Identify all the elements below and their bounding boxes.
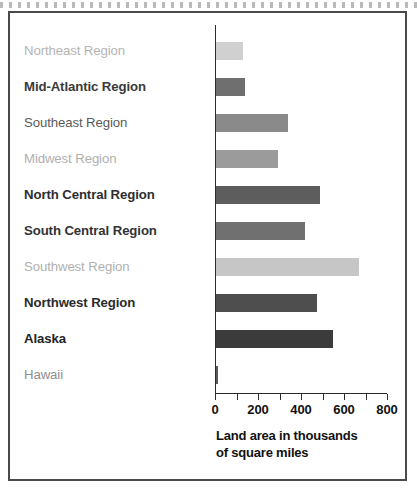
bar-chart: Northeast RegionMid-Atlantic RegionSouth…: [10, 13, 405, 479]
bar-row: Mid-Atlantic Region: [10, 69, 405, 105]
bar-track: [216, 33, 394, 69]
bar-row: Northeast Region: [10, 33, 405, 69]
bar-category-label: Northeast Region: [24, 33, 125, 69]
x-axis-tick: [323, 394, 324, 400]
x-axis-tick: [237, 394, 238, 400]
x-axis-tick: [344, 394, 345, 400]
bar-category-label: Mid-Atlantic Region: [24, 69, 146, 105]
bar-row: Midwest Region: [10, 141, 405, 177]
x-axis-tick: [366, 394, 367, 400]
bar-category-label: Alaska: [24, 321, 66, 357]
x-axis-tick-label: 600: [333, 402, 355, 417]
bar-category-label: Hawaii: [24, 357, 63, 393]
bar: [216, 42, 243, 60]
bar: [216, 186, 320, 204]
bar-track: [216, 105, 394, 141]
x-axis-tick-label: 0: [211, 402, 218, 417]
bar: [216, 114, 288, 132]
x-axis-tick-label: 400: [290, 402, 312, 417]
x-axis-tick-label: 800: [376, 402, 398, 417]
bar: [216, 294, 317, 312]
bar-row: Alaska: [10, 321, 405, 357]
chart-frame: Northeast RegionMid-Atlantic RegionSouth…: [8, 11, 407, 481]
perforation-strip: [0, 2, 417, 8]
bar-category-label: Northwest Region: [24, 285, 135, 321]
bar-category-label: Midwest Region: [24, 141, 116, 177]
x-axis-tick: [301, 394, 302, 400]
bar-track: [216, 213, 394, 249]
bar-category-label: South Central Region: [24, 213, 157, 249]
bar-category-label: Southwest Region: [24, 249, 129, 285]
bar-row: Hawaii: [10, 357, 405, 393]
bar-row: Southwest Region: [10, 249, 405, 285]
x-axis-tick: [215, 394, 216, 400]
x-axis-title: Land area in thousands of square miles: [216, 427, 396, 461]
x-axis-tick: [387, 394, 388, 400]
bar-row: South Central Region: [10, 213, 405, 249]
x-axis-tick-label: 200: [247, 402, 269, 417]
bar-track: [216, 249, 394, 285]
bar-rows: Northeast RegionMid-Atlantic RegionSouth…: [10, 33, 405, 393]
bar: [216, 258, 359, 276]
bar-category-label: Southeast Region: [24, 105, 127, 141]
bar-track: [216, 285, 394, 321]
bar: [216, 330, 333, 348]
bar-track: [216, 177, 394, 213]
bar-track: [216, 69, 394, 105]
y-axis-line: [215, 25, 216, 393]
x-axis-title-line2: of square miles: [216, 444, 396, 461]
bar-track: [216, 357, 394, 393]
bar-track: [216, 141, 394, 177]
bar: [216, 78, 245, 96]
bar-category-label: North Central Region: [24, 177, 155, 213]
x-axis-tick: [258, 394, 259, 400]
bar: [216, 150, 278, 168]
bar-row: Northwest Region: [10, 285, 405, 321]
bar-row: North Central Region: [10, 177, 405, 213]
bar-track: [216, 321, 394, 357]
bar-row: Southeast Region: [10, 105, 405, 141]
x-axis-title-line1: Land area in thousands: [216, 427, 396, 444]
page-root: Northeast RegionMid-Atlantic RegionSouth…: [0, 0, 417, 494]
x-axis-tick: [280, 394, 281, 400]
bar: [216, 222, 305, 240]
